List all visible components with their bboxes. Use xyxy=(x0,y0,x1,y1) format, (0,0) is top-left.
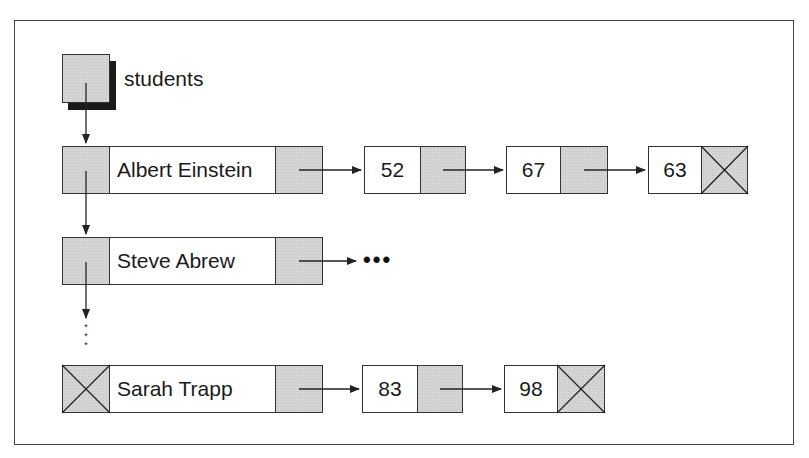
arrows-layer xyxy=(0,0,809,458)
